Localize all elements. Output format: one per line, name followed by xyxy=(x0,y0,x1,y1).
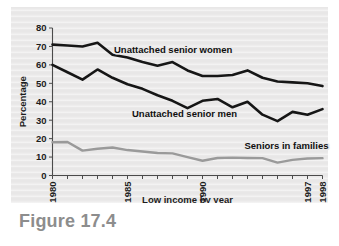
y-axis-title: Percentage xyxy=(17,76,28,127)
series-label-2: Unattached senior men xyxy=(132,108,237,119)
line-chart: 0102030405060708019801985199019971998Per… xyxy=(0,0,339,210)
x-tick-label: 1980 xyxy=(47,182,58,203)
y-tick-label: 40 xyxy=(36,96,47,107)
y-tick-label: 0 xyxy=(41,170,46,181)
y-tick-label: 80 xyxy=(36,22,47,33)
y-tick-label: 50 xyxy=(36,78,47,89)
y-tick-label: 20 xyxy=(36,133,47,144)
figure-container: 0102030405060708019801985199019971998Per… xyxy=(0,0,339,246)
y-tick-label: 60 xyxy=(36,59,47,70)
y-tick-label: 70 xyxy=(36,41,47,52)
figure-caption: Figure 17.4 xyxy=(19,211,116,232)
x-tick-label: 1985 xyxy=(122,181,133,203)
y-tick-label: 30 xyxy=(36,115,47,126)
x-tick-label: 1997 xyxy=(302,182,313,203)
series-label-1: Unattached senior women xyxy=(114,44,232,55)
y-tick-label: 10 xyxy=(36,151,47,162)
series-label-3: Seniors in families xyxy=(245,140,329,151)
x-tick-label: 1998 xyxy=(317,182,328,203)
